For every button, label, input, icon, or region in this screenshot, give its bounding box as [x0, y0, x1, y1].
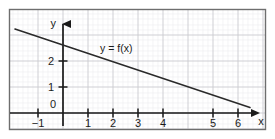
y-tick-label-1: 1	[48, 81, 54, 93]
x-tick-label-4: 4	[160, 117, 166, 129]
function-annotation: y = f(x)	[100, 42, 132, 54]
graph-figure: −1 1 2 3 4 5 6 1 2 0 y x y = f(x)	[0, 0, 275, 139]
y-tick-label-2: 2	[48, 55, 54, 67]
plot-canvas: −1 1 2 3 4 5 6 1 2 0 y x y = f(x)	[0, 0, 275, 139]
x-tick-label-neg1: −1	[32, 117, 45, 129]
y-axis-label: y	[51, 17, 57, 29]
x-tick-label-6: 6	[235, 117, 241, 129]
origin-label: 0	[50, 98, 56, 110]
x-axis-label: x	[258, 115, 264, 127]
x-tick-label-2: 2	[110, 117, 116, 129]
x-tick-label-1: 1	[85, 117, 91, 129]
x-tick-label-3: 3	[135, 117, 141, 129]
x-tick-label-5: 5	[210, 117, 216, 129]
